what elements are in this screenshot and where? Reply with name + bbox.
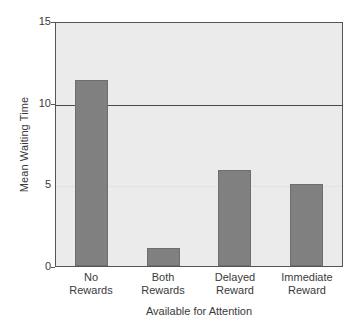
x-tick-label-immediate-reward: Immediate Reward xyxy=(271,271,343,297)
x-tick-line-1: No xyxy=(84,271,98,283)
x-axis-tick-labels: No Rewards Both Rewards Delayed Reward I… xyxy=(55,271,343,297)
x-tick-label-no-rewards: No Rewards xyxy=(55,271,127,297)
bar-both-rewards xyxy=(147,248,180,266)
y-tick-mark-0 xyxy=(51,267,55,268)
bar-chart-figure: Mean Waiting Time 15 10 5 0 xyxy=(0,0,354,332)
bar-delayed-reward xyxy=(218,170,251,266)
y-axis-ticks: 15 10 5 0 xyxy=(22,22,51,267)
y-tick-label-15: 15 xyxy=(25,16,51,27)
x-tick-label-delayed-reward: Delayed Reward xyxy=(199,271,271,297)
x-tick-line-2: Rewards xyxy=(55,284,127,297)
bar-no-rewards xyxy=(75,80,108,266)
x-tick-line-1: Immediate xyxy=(281,271,332,283)
x-tick-line-2: Reward xyxy=(271,284,343,297)
bar-slot xyxy=(199,23,271,266)
x-tick-line-2: Rewards xyxy=(127,284,199,297)
x-tick-line-2: Reward xyxy=(199,284,271,297)
bar-immediate-reward xyxy=(290,184,323,266)
plot-area xyxy=(55,22,343,267)
x-tick-line-1: Both xyxy=(152,271,175,283)
y-tick-label-10: 10 xyxy=(25,98,51,109)
x-axis-title: Available for Attention xyxy=(55,305,343,318)
bar-slot xyxy=(271,23,343,266)
bar-slot xyxy=(128,23,200,266)
y-tick-label-5: 5 xyxy=(25,179,51,190)
bar-slot xyxy=(56,23,128,266)
bar-series xyxy=(56,23,342,266)
x-tick-line-1: Delayed xyxy=(215,271,255,283)
y-tick-label-0: 0 xyxy=(25,261,51,272)
x-tick-label-both-rewards: Both Rewards xyxy=(127,271,199,297)
